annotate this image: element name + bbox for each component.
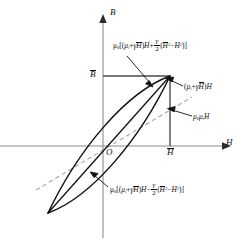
- eq2-hbar2: H: [160, 186, 165, 193]
- eq2-frac-num: γ: [151, 182, 157, 189]
- chord-h: H: [206, 82, 211, 91]
- chord-hbar: H: [199, 83, 204, 90]
- b-bar-tick-label: B: [90, 70, 96, 79]
- initial-permeability-dashed-line: [36, 97, 192, 190]
- h-bar-glyph: H: [167, 148, 174, 157]
- h-axis-label: H: [226, 138, 233, 147]
- eq-hbar2: H: [163, 42, 168, 49]
- eq-fraction: γ2: [154, 38, 160, 53]
- eq2-hbar: H: [133, 186, 138, 193]
- eq-frac-den: 2: [154, 45, 160, 53]
- eq2-fraction: γ2: [151, 182, 157, 197]
- leader-upper-branch: [127, 56, 150, 83]
- leader-initial-slope: [172, 110, 192, 116]
- origin-label: O: [106, 148, 113, 157]
- hysteresis-loop-figure: B H B H O μ0[(μi+γH)H+γ2(H2−H2)] (μi+γH)…: [0, 0, 246, 240]
- ip-h: H: [204, 112, 209, 121]
- b-axis-label: B: [110, 8, 116, 17]
- eq-hbar: H: [136, 42, 141, 49]
- upper-branch-equation-label: μ0[(μi+γH)H+γ2(H2−H2)]: [113, 38, 187, 53]
- leader-lower-branch-arrowhead: [90, 172, 98, 178]
- b-bar-glyph: B: [90, 70, 96, 79]
- eq-term-close: )]: [182, 41, 187, 50]
- eq2-frac-den: 2: [151, 189, 157, 197]
- eq2-operator: −: [146, 185, 150, 194]
- chord-equation-label: (μi+γH)H: [184, 83, 212, 92]
- initial-permeability-equation-label: μ0μiH: [193, 113, 209, 122]
- eq-frac-num: γ: [154, 38, 160, 45]
- lower-branch-equation-label: μ0[(μi+γH)H−γ2(H2−H2)]: [110, 182, 184, 197]
- h-bar-tick-label: H: [167, 148, 174, 157]
- v-axis-arrowhead: [99, 14, 106, 23]
- eq2-term-close: )]: [179, 185, 184, 194]
- eq-operator: +: [149, 41, 153, 50]
